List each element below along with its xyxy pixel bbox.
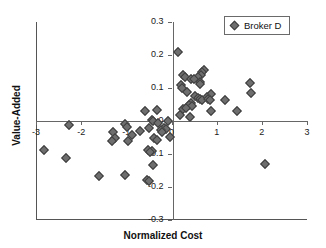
legend-label: Broker D: [244, 20, 281, 31]
chart-legend[interactable]: Broker D: [224, 16, 290, 35]
y-axis-tick-label: -0.3: [138, 214, 164, 224]
y-axis-title: Value-Added: [11, 56, 22, 176]
y-axis-tick-label: 0.2: [138, 49, 164, 59]
x-axis-tick-label: -3: [23, 127, 49, 137]
x-axis-tick-label: 3: [294, 127, 320, 137]
x-axis-tick: [262, 121, 263, 125]
y-axis-tick: [168, 22, 172, 23]
x-axis-tick: [81, 121, 82, 125]
legend-diamond-icon: [230, 21, 240, 31]
x-axis-tick: [36, 121, 37, 125]
x-axis-tick: [217, 121, 218, 125]
y-axis-tick: [168, 55, 172, 56]
x-axis-title: Normalized Cost: [0, 230, 326, 241]
y-axis-tick: [168, 154, 172, 155]
x-axis-tick-label: 2: [249, 127, 275, 137]
y-axis-tick-label: 0.3: [138, 16, 164, 26]
x-axis-tick: [307, 121, 308, 125]
y-axis-tick: [168, 88, 172, 89]
y-axis-tick-label: 0.1: [138, 82, 164, 92]
y-axis-tick: [168, 220, 172, 221]
y-axis-tick: [168, 187, 172, 188]
x-axis-tick-label: 1: [204, 127, 230, 137]
x-axis-tick-label: -2: [68, 127, 94, 137]
chart-screenshot: -3-2-101230.30.20.10-0.1-0.2-0.3 Normali…: [0, 0, 326, 248]
